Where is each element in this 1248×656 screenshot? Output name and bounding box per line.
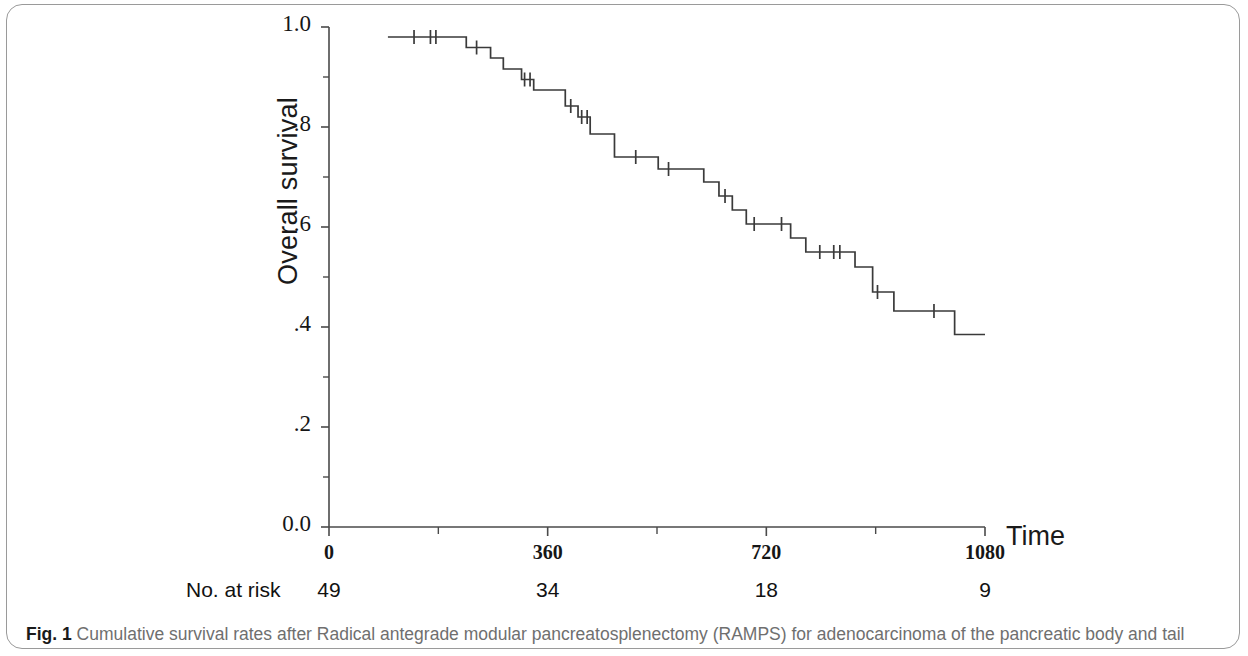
number-at-risk-value: 18 bbox=[736, 578, 796, 602]
number-at-risk-value: 34 bbox=[518, 578, 578, 602]
number-at-risk-label: No. at risk bbox=[186, 578, 281, 602]
y-axis-ticks bbox=[321, 27, 329, 527]
x-axis-ticks bbox=[329, 527, 985, 536]
number-at-risk-value: 9 bbox=[955, 578, 1015, 602]
x-axis-tick-label: 720 bbox=[721, 541, 811, 564]
plot-area: 1.0.8.6.4.20.0 03607201080 Overall survi… bbox=[0, 0, 1248, 612]
x-axis-tick-label: 360 bbox=[503, 541, 593, 564]
survival-step-curve bbox=[388, 37, 985, 335]
x-axis-tick-label: 0 bbox=[284, 541, 374, 564]
y-axis-tick-label: .2 bbox=[229, 411, 311, 437]
y-axis-tick-label: 1.0 bbox=[229, 11, 311, 37]
y-axis-tick-label: .4 bbox=[229, 311, 311, 337]
figure-container: 1.0.8.6.4.20.0 03607201080 Overall survi… bbox=[0, 0, 1248, 656]
axis-lines bbox=[329, 27, 985, 527]
y-axis-tick-label: 0.0 bbox=[229, 511, 311, 537]
figure-caption: Fig. 1 Cumulative survival rates after R… bbox=[26, 622, 1231, 646]
censor-tick-marks bbox=[414, 30, 934, 318]
number-at-risk-row: No. at risk 4934189 bbox=[0, 578, 1248, 608]
number-at-risk-value: 49 bbox=[299, 578, 359, 602]
x-axis-title: Time bbox=[1006, 521, 1065, 552]
figure-caption-text: Cumulative survival rates after Radical … bbox=[77, 624, 1185, 644]
figure-caption-label: Fig. 1 bbox=[26, 624, 72, 644]
y-axis-title: Overall survival bbox=[265, 76, 311, 306]
